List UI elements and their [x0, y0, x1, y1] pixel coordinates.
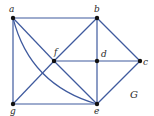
edge-f-g	[13, 61, 54, 104]
edge-f-e	[54, 61, 97, 104]
label-c: c	[143, 57, 148, 67]
label-b: b	[94, 4, 100, 14]
edges	[13, 18, 140, 104]
vertex-f	[52, 59, 56, 63]
graph-name-label: G	[130, 89, 138, 100]
label-e: e	[94, 106, 99, 116]
edge-b-f	[54, 18, 97, 61]
labels: a b c d e f g G	[9, 4, 148, 116]
edge-a-f	[13, 18, 54, 61]
vertex-a	[11, 16, 15, 20]
label-a: a	[9, 4, 14, 14]
label-f: f	[53, 47, 59, 57]
label-g: g	[10, 106, 16, 116]
vertex-d	[95, 59, 99, 63]
label-d: d	[101, 49, 107, 59]
graph-diagram: a b c d e f g G	[0, 0, 154, 116]
vertex-c	[138, 59, 142, 63]
vertex-b	[95, 16, 99, 20]
